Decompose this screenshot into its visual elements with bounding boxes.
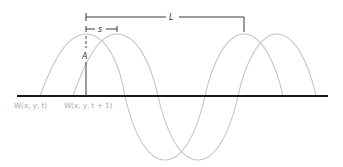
wave-t-caption: W(x, y, t) — [14, 101, 47, 110]
wavelength-label: L — [169, 13, 173, 22]
wave-diagram: A L s W(x, y, t) W(x, y, t + 1) — [0, 0, 343, 167]
wave-t1-caption: W(x, y, t + 1) — [64, 101, 113, 110]
shift-label: s — [98, 25, 102, 34]
amplitude-label: A — [81, 52, 87, 61]
